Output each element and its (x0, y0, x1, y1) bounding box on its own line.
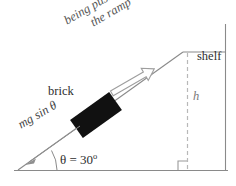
brick-shape (70, 92, 122, 138)
height-label: h (193, 90, 199, 103)
inclined-plane-diagram: being pushed up the ramp brick mg sin θ … (0, 0, 236, 186)
diagram-canvas (0, 0, 236, 186)
angle-label-value: θ = 30 (60, 152, 93, 167)
shelf-label: shelf (197, 50, 221, 63)
angle-label: θ = 30o (60, 152, 97, 166)
right-angle-marker (178, 161, 187, 170)
brick-label: brick (48, 85, 74, 98)
degree-symbol: o (93, 151, 97, 161)
angle-arc (52, 151, 58, 171)
push-arrow-icon (108, 63, 157, 100)
